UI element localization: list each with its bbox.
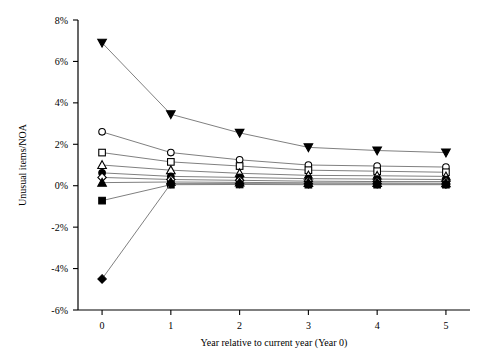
chart-figure: -6%-4%-2%0%2%4%6%8%012345Year relative t…: [0, 0, 482, 350]
x-axis-label: Year relative to current year (Year 0): [201, 337, 348, 349]
y-axis-label: Unusual items/NOA: [17, 123, 28, 206]
series-line: [102, 43, 446, 153]
y-tick-label: -2%: [51, 222, 68, 233]
marker-open-triangle-up: [98, 161, 107, 169]
series-line: [102, 184, 446, 200]
marker-open-square: [99, 149, 106, 156]
marker-filled-square: [99, 197, 106, 204]
series-line: [102, 132, 446, 167]
line-chart: -6%-4%-2%0%2%4%6%8%012345Year relative t…: [0, 0, 482, 350]
y-tick-label: 4%: [55, 97, 68, 108]
series-line: [102, 182, 446, 183]
series-portfolio-9: [98, 179, 450, 283]
marker-open-square: [168, 159, 175, 166]
y-tick-label: 0%: [55, 180, 68, 191]
series-portfolio-1: [98, 39, 450, 157]
y-tick-label: -6%: [51, 305, 68, 316]
y-tick-label: 2%: [55, 139, 68, 150]
y-tick-label: -4%: [51, 263, 68, 274]
x-tick-label: 2: [237, 320, 242, 331]
series-portfolio-8: [99, 181, 449, 204]
y-tick-label: 6%: [55, 56, 68, 67]
series-portfolio-2: [99, 129, 449, 171]
marker-filled-diamond: [98, 275, 106, 283]
x-tick-label: 0: [100, 320, 105, 331]
x-tick-label: 1: [168, 320, 173, 331]
marker-open-circle: [236, 157, 243, 164]
x-tick-label: 3: [306, 320, 311, 331]
series-portfolio-4: [98, 161, 450, 180]
x-tick-label: 5: [443, 320, 448, 331]
y-tick-label: 8%: [55, 15, 68, 26]
marker-open-circle: [168, 149, 175, 156]
x-tick-label: 4: [375, 320, 380, 331]
series-line: [102, 184, 446, 279]
marker-open-circle: [99, 129, 106, 136]
